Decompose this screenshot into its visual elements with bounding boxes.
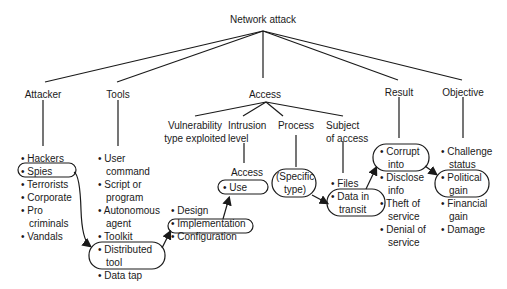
list-item-highlighted: • Political	[441, 171, 492, 184]
list-item-highlighted: (Specific	[276, 170, 314, 183]
list-item: • Pro	[21, 204, 72, 217]
list-item-highlighted: • Implementation	[171, 217, 246, 230]
list-item-highlighted: • Corrupt	[380, 145, 426, 158]
list-item-cont: service	[380, 236, 426, 249]
list-item: • Disclose	[380, 171, 426, 184]
list-item: • Files	[331, 177, 369, 190]
list-item: • Autonomous	[98, 204, 160, 217]
label-line: Vulnerability	[164, 119, 226, 132]
list-item-cont: criminals	[21, 217, 72, 230]
list-item: • Corporate	[21, 191, 72, 204]
list-item: • Theft of	[380, 197, 426, 210]
list-item-cont: tool	[98, 256, 160, 269]
list-item-cont: info	[380, 184, 426, 197]
attacker-label: Attacker	[25, 88, 62, 101]
label-line: of access	[326, 132, 368, 145]
label-line: Intrusion	[228, 119, 266, 132]
process-list: (Specific type)	[276, 170, 314, 196]
intrusion-label: Intrusion level	[228, 119, 266, 145]
list-item-cont: status	[441, 158, 492, 171]
list-item-cont: agent	[98, 217, 160, 230]
result-label: Result	[385, 86, 413, 99]
result-list: • Corrupt into • Disclose info • Theft o…	[380, 145, 426, 249]
list-item: • Design	[171, 204, 246, 217]
list-item-cont: transit	[331, 203, 369, 216]
list-item-cont: into	[380, 158, 426, 171]
objective-list: • Challenge status • Political gain • Fi…	[441, 145, 492, 236]
tools-list: • User command • Script or program • Aut…	[98, 152, 160, 282]
list-item-cont: gain	[441, 210, 492, 223]
process-label: Process	[278, 119, 314, 132]
access-label: Access	[249, 88, 281, 101]
list-item: • Toolkit	[98, 230, 160, 243]
list-item: • Vandals	[21, 230, 72, 243]
list-item: • Damage	[441, 223, 492, 236]
label-line: level	[228, 132, 266, 145]
list-item-cont: type)	[276, 183, 314, 196]
list-item-highlighted: • Data in	[331, 190, 369, 203]
attacker-list: • Hackers • Spies • Terrorists • Corpora…	[21, 152, 72, 243]
list-item: • Hackers	[21, 152, 72, 165]
subject-list: • Files • Data in transit	[331, 177, 369, 216]
label-line: type exploited	[164, 132, 226, 145]
list-item-highlighted: • Use	[223, 181, 247, 194]
subject-label: Subject of access	[326, 119, 368, 145]
list-item: • Denial of	[380, 223, 426, 236]
list-item: • Challenge	[441, 145, 492, 158]
intrusion-list: • Use	[223, 181, 247, 194]
list-item-cont: gain	[441, 184, 492, 197]
list-item-cont: program	[98, 191, 160, 204]
list-item-highlighted: • Spies	[21, 165, 72, 178]
root-title: Network attack	[230, 13, 296, 26]
intrusion-sublabel: Access	[231, 166, 263, 179]
list-item: • Script or	[98, 178, 160, 191]
list-item: • Configuration	[171, 230, 246, 243]
objective-label: Objective	[442, 86, 484, 99]
vulnerability-list: • Design • Implementation • Configuratio…	[171, 204, 246, 243]
label-line: Subject	[326, 119, 368, 132]
list-item: • Data tap	[98, 269, 160, 282]
tools-label: Tools	[106, 88, 129, 101]
list-item: • User	[98, 152, 160, 165]
vulnerability-label: Vulnerability type exploited	[164, 119, 226, 145]
list-item-cont: service	[380, 210, 426, 223]
list-item-highlighted: • Distributed	[98, 243, 160, 256]
list-item: • Financial	[441, 197, 492, 210]
list-item: • Terrorists	[21, 178, 72, 191]
list-item-cont: command	[98, 165, 160, 178]
